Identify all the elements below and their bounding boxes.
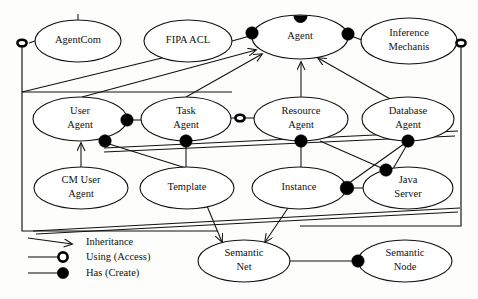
node-label-agent: Agent xyxy=(287,30,313,41)
legend-item-inheritance: Inheritance xyxy=(28,236,134,247)
node-label-java-server-line2: Server xyxy=(394,188,422,199)
legend-label-has: Has (Create) xyxy=(86,267,140,279)
node-user-agent[interactable]: User Agent xyxy=(33,97,127,141)
filled-circle-marker-semnode-left xyxy=(352,255,364,267)
node-database-agent[interactable]: Database Agent xyxy=(362,97,454,141)
node-label-semantic-node-line2: Node xyxy=(394,261,417,272)
node-label-java-server-line1: Java xyxy=(399,174,418,185)
filled-circle-marker-useragent-bottom xyxy=(99,135,111,147)
legend-item-using: Using (Access) xyxy=(28,251,151,263)
node-semantic-node[interactable]: Semantic Node xyxy=(358,240,452,282)
filled-circle-marker-javaserver-top xyxy=(380,164,392,176)
node-label-semantic-net-line2: Net xyxy=(236,261,251,272)
filled-circle-marker-taskagent-bottom xyxy=(180,135,192,147)
legend-label-using: Using (Access) xyxy=(86,251,151,263)
node-label-template: Template xyxy=(168,181,207,192)
node-label-agentcom: AgentCom xyxy=(55,34,101,45)
node-label-inference-line1: Inference xyxy=(389,27,429,38)
node-label-resource-agent-line1: Resource xyxy=(281,105,320,116)
node-label-inference-line2: Mechanis xyxy=(389,41,430,52)
diagram-canvas: AgentCom FIPA ACL Agent Inference Mechan… xyxy=(0,0,478,299)
inherit-instance-semnet xyxy=(265,208,288,242)
node-label-user-agent-line2: Agent xyxy=(67,119,93,130)
node-label-user-agent-line1: User xyxy=(70,105,90,116)
open-circle-marker xyxy=(58,252,67,261)
filled-circle-marker-useragent-right xyxy=(121,114,133,126)
filled-circle-marker-instance-right xyxy=(340,181,354,195)
node-label-semantic-node-line1: Semantic xyxy=(385,247,424,258)
link-resource-javaserver xyxy=(320,141,386,170)
node-label-task-agent-line2: Agent xyxy=(173,119,199,130)
node-label-database-agent-line1: Database xyxy=(389,105,428,116)
node-label-task-agent-line1: Task xyxy=(176,105,196,116)
node-java-server[interactable]: Java Server xyxy=(363,167,453,209)
node-inference-mechanis[interactable]: Inference Mechanis xyxy=(361,18,457,64)
inherit-database-agent xyxy=(318,58,392,100)
arrow-marker xyxy=(28,238,72,244)
open-circle-marker-taskagent xyxy=(235,115,244,122)
node-label-resource-agent-line2: Agent xyxy=(288,119,314,130)
link-agentcom-using xyxy=(29,41,35,43)
node-label-database-agent-line2: Agent xyxy=(395,119,421,130)
filled-circle-marker-agent-right xyxy=(342,28,354,40)
legend: Inheritance Using (Access) Has (Create) xyxy=(28,236,151,279)
filled-circle-marker-agent-left xyxy=(246,27,258,39)
open-circle-marker-inference xyxy=(456,40,465,47)
link-useragent-template xyxy=(106,143,186,168)
node-fipa-acl[interactable]: FIPA ACL xyxy=(144,20,232,62)
node-semantic-net[interactable]: Semantic Net xyxy=(198,240,290,282)
node-task-agent[interactable]: Task Agent xyxy=(141,97,231,141)
filled-circle-marker-database-bottom xyxy=(402,135,414,147)
filled-circle-marker xyxy=(57,267,68,278)
node-label-fipa-acl: FIPA ACL xyxy=(166,34,210,45)
node-label-instance: Instance xyxy=(282,181,317,192)
node-label-semantic-net-line1: Semantic xyxy=(224,247,263,258)
link-bus-e xyxy=(36,212,458,234)
filled-circle-marker-resource-bottom xyxy=(295,135,307,147)
link-bus-d xyxy=(33,208,460,231)
legend-label-inheritance: Inheritance xyxy=(86,236,134,247)
legend-item-has: Has (Create) xyxy=(28,267,140,279)
node-label-cm-user-agent-line1: CM User xyxy=(62,174,101,185)
uml-use-case-diagram: AgentCom FIPA ACL Agent Inference Mechan… xyxy=(0,0,478,299)
node-agentcom[interactable]: AgentCom xyxy=(35,20,121,62)
node-label-cm-user-agent-line2: Agent xyxy=(68,188,94,199)
node-resource-agent[interactable]: Resource Agent xyxy=(254,97,348,141)
node-template[interactable]: Template xyxy=(140,167,234,209)
node-cm-user-agent[interactable]: CM User Agent xyxy=(34,167,128,209)
open-circle-marker-agentcom xyxy=(17,40,26,47)
node-instance[interactable]: Instance xyxy=(252,167,346,209)
